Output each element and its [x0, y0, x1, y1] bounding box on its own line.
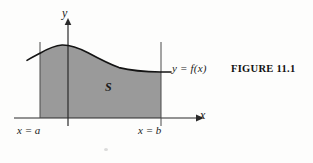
shaded-region-s	[40, 45, 161, 118]
scan-artifact-speck	[104, 148, 108, 151]
region-label-s: S	[105, 80, 112, 95]
figure-caption: FIGURE 11.1	[231, 63, 296, 74]
figure-container: y x S y = f(x) x = a x = b FIGURE 11.1	[0, 0, 313, 163]
boundary-label-x-equals-a: x = a	[17, 124, 40, 136]
curve-label-y-equals-f-of-x: y = f(x)	[172, 62, 207, 74]
x-axis-label: x	[200, 108, 205, 123]
boundary-label-x-equals-b: x = b	[138, 124, 161, 136]
figure-graphic	[0, 0, 313, 163]
y-axis-label: y	[62, 6, 67, 21]
